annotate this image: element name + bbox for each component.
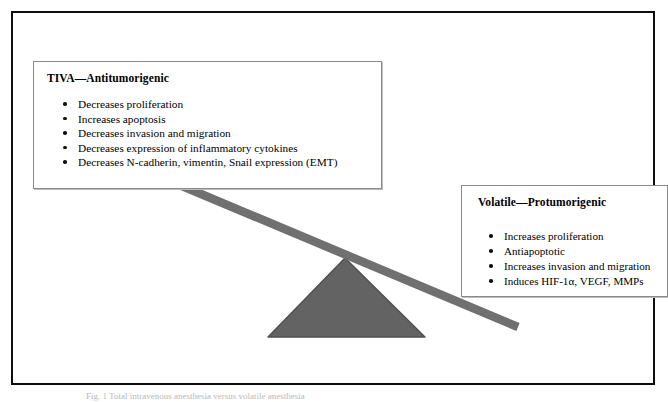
list-item: Decreases invasion and migration (44, 126, 371, 141)
list-item: Decreases proliferation (44, 97, 371, 112)
list-item-label: Decreases invasion and migration (78, 127, 231, 139)
list-item: Decreases N-cadherin, vimentin, Snail ex… (44, 155, 371, 170)
callout-volatile-bullet-list: Increases proliferation Antiapoptotic In… (472, 229, 659, 289)
bullet-dot-icon (63, 160, 67, 164)
callout-tiva-title: TIVA—Antitumorigenic (47, 71, 371, 85)
bullet-dot-icon (489, 279, 493, 283)
list-item-label: Induces HIF-1α, VEGF, MMPs (504, 275, 644, 287)
list-item-label: Decreases N-cadherin, vimentin, Snail ex… (78, 156, 337, 168)
figure-frame: TIVA—Antitumorigenic Decreases prolifera… (11, 11, 655, 385)
list-item-label: Decreases proliferation (78, 98, 183, 110)
figure-caption: Fig. 1 Total intravenous anesthesia vers… (86, 391, 646, 402)
bullet-dot-icon (63, 146, 67, 150)
bullet-dot-icon (63, 102, 67, 106)
list-item-label: Decreases expression of inflammatory cyt… (78, 142, 298, 154)
callout-volatile-title: Volatile—Protumorigenic (478, 195, 659, 209)
list-item: Increases apoptosis (44, 112, 371, 127)
list-item: Increases invasion and migration (472, 259, 659, 274)
callout-tiva-bullet-list: Decreases proliferation Increases apopto… (44, 97, 371, 170)
list-item: Decreases expression of inflammatory cyt… (44, 141, 371, 156)
list-item-label: Increases proliferation (504, 230, 604, 242)
callout-tiva: TIVA—Antitumorigenic Decreases prolifera… (33, 61, 382, 189)
list-item-label: Antiapoptotic (504, 245, 565, 257)
list-item: Antiapoptotic (472, 244, 659, 259)
bullet-dot-icon (489, 264, 493, 268)
callout-volatile: Volatile—Protumorigenic Increases prolif… (461, 185, 668, 297)
list-item: Induces HIF-1α, VEGF, MMPs (472, 274, 659, 289)
bullet-dot-icon (489, 249, 493, 253)
bullet-dot-icon (63, 131, 67, 135)
list-item: Increases proliferation (472, 229, 659, 244)
list-item-label: Increases invasion and migration (504, 260, 650, 272)
bullet-dot-icon (63, 117, 67, 121)
list-item-label: Increases apoptosis (78, 113, 166, 125)
bullet-dot-icon (489, 234, 493, 238)
fulcrum-triangle (268, 258, 425, 337)
